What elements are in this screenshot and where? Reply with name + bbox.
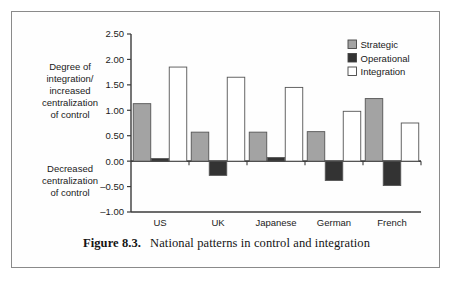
bar-integration-german xyxy=(343,111,361,161)
annotation-upper-line: Degree of xyxy=(49,61,91,72)
bar-chart: 2.502.001.501.000.500.00–0.50–1.00USUKJa… xyxy=(12,12,441,234)
x-category-label: US xyxy=(153,217,166,228)
y-tick-label: 0.00 xyxy=(106,156,125,167)
bar-operational-us xyxy=(151,159,169,162)
x-category-label: UK xyxy=(211,217,225,228)
y-tick-label: 2.50 xyxy=(106,28,125,39)
bar-integration-japanese xyxy=(285,87,303,161)
bar-integration-french xyxy=(401,123,419,161)
chart-area: 2.502.001.501.000.500.00–0.50–1.00USUKJa… xyxy=(12,12,441,234)
y-tick-label: –0.50 xyxy=(100,181,124,192)
bar-integration-uk xyxy=(227,77,245,161)
annotation-lower-line: centralization xyxy=(42,175,98,186)
bar-strategic-french xyxy=(365,99,383,162)
figure-caption-text: National patterns in control and integra… xyxy=(150,236,370,250)
x-category-label: French xyxy=(377,217,407,228)
figure-caption: Figure 8.3.National patterns in control … xyxy=(12,236,441,251)
annotation-upper-line: centralization xyxy=(42,97,98,108)
legend-label-integration: Integration xyxy=(361,66,406,77)
figure-frame: 2.502.001.501.000.500.00–0.50–1.00USUKJa… xyxy=(11,11,440,268)
bar-strategic-us xyxy=(133,104,151,161)
figure-number: Figure 8.3. xyxy=(83,236,141,250)
annotation-upper-line: of control xyxy=(50,109,89,120)
bar-integration-us xyxy=(169,67,187,161)
annotation-lower-line: Decreased xyxy=(47,163,93,174)
bar-operational-german xyxy=(325,161,343,180)
annotation-upper-line: increased xyxy=(49,85,90,96)
y-tick-label: 2.00 xyxy=(106,54,125,65)
bar-operational-japanese xyxy=(267,158,285,162)
x-category-label: Japanese xyxy=(255,217,296,228)
bar-operational-uk xyxy=(209,161,227,175)
y-tick-label: 1.50 xyxy=(106,79,125,90)
y-tick-label: 1.00 xyxy=(106,105,125,116)
x-category-label: German xyxy=(317,217,351,228)
bar-strategic-uk xyxy=(191,132,209,161)
bar-strategic-japanese xyxy=(249,132,267,161)
annotation-lower-line: of control xyxy=(50,187,89,198)
y-tick-label: –1.00 xyxy=(100,206,124,217)
legend-swatch-integration xyxy=(348,67,357,76)
legend-swatch-strategic xyxy=(348,40,357,49)
annotation-upper-line: integration/ xyxy=(46,73,93,84)
legend-swatch-operational xyxy=(348,54,357,63)
bar-strategic-german xyxy=(307,132,325,162)
y-tick-label: 0.50 xyxy=(106,130,125,141)
legend-label-strategic: Strategic xyxy=(361,39,399,50)
legend-label-operational: Operational xyxy=(361,53,410,64)
bar-operational-french xyxy=(383,161,401,185)
